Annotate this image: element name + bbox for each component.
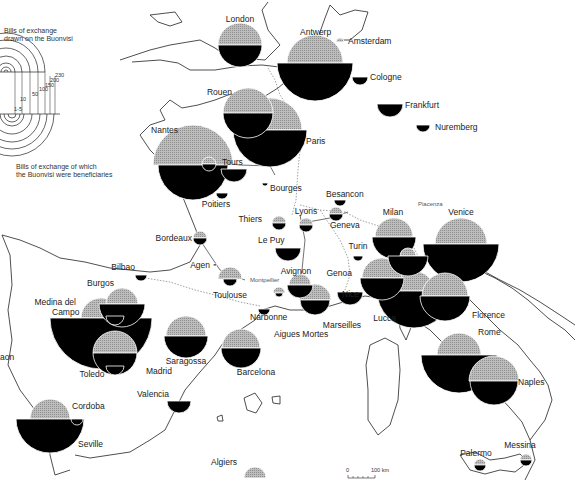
- city-label-turin: Turin: [348, 241, 367, 251]
- city-label-seville: Seville: [78, 439, 103, 449]
- city-label-narbonne: Narbonne: [250, 312, 288, 322]
- city-label-medina-del-campo-2: Campo: [52, 307, 80, 317]
- city-label-amsterdam: Amsterdam: [348, 36, 391, 46]
- city-label-naples: Naples: [518, 377, 544, 387]
- svg-text:1-5: 1-5: [14, 106, 22, 112]
- city-symbol-nantes: [153, 125, 233, 200]
- city-label-lucca: Lucca: [373, 313, 396, 323]
- city-label-bourges: Bourges: [270, 183, 302, 193]
- drawn-on-semicircle: [193, 231, 207, 238]
- legend-bottom-title-2: the Buonvisi were beneficiaries: [16, 171, 113, 178]
- beneficiaries-semicircle: [164, 336, 208, 358]
- beneficiaries-semicircle: [262, 183, 268, 186]
- city-symbol-venice: [423, 218, 499, 282]
- beneficiaries-semicircle: [474, 465, 486, 471]
- city-symbol-avignon: [287, 274, 313, 298]
- beneficiaries-semicircle: [300, 300, 330, 315]
- city-label-palermo: Palermo: [460, 448, 492, 458]
- edge-label: aon: [0, 352, 14, 362]
- city-symbol-bordeaux: [193, 231, 207, 245]
- city-symbol-geneva: [329, 207, 343, 221]
- beneficiaries-semicircle: [223, 279, 237, 286]
- beneficiaries-semicircle: [352, 77, 368, 85]
- city-label-besancon: Besancon: [326, 189, 364, 199]
- beneficiaries-semicircle: [520, 460, 532, 466]
- scale-bar: 0 100 km: [346, 467, 389, 478]
- city-symbol-valencia: [167, 401, 191, 413]
- beneficiaries-semicircle: [334, 200, 346, 206]
- drawn-on-semicircle: [106, 288, 138, 304]
- city-symbol-montpellier: [273, 287, 285, 297]
- city-label-montpellier: Montpellier: [250, 277, 279, 283]
- city-symbol-antwerp: [277, 35, 353, 101]
- svg-text:10: 10: [20, 96, 26, 102]
- city-label-cologne: Cologne: [370, 72, 402, 82]
- beneficiaries-semicircle: [135, 275, 147, 281]
- city-label-poitiers: Poitiers: [202, 199, 230, 209]
- legend-top-title-1: Bills of exchange: [4, 27, 57, 35]
- city-symbol-frankfurt: [377, 104, 403, 117]
- city-symbol-london: [218, 23, 262, 67]
- city-label-barcelona: Barcelona: [237, 367, 276, 377]
- city-symbol-cologne: [352, 77, 368, 85]
- city-symbol-tours: [202, 157, 216, 171]
- city-label-rome: Rome: [478, 327, 501, 337]
- drawn-on-semicircle: [287, 35, 343, 63]
- city-symbol-besancon: [334, 200, 346, 206]
- beneficiaries-semicircle: [275, 248, 301, 261]
- map-canvas: Bills of exchange drawn on the Buonvisi …: [0, 0, 581, 496]
- beneficiaries-semicircle: [221, 348, 261, 368]
- city-label-piacenza: Piacenza: [418, 201, 443, 207]
- drawn-on-semicircle: [375, 218, 413, 237]
- beneficiaries-semicircle: [416, 125, 430, 132]
- drawn-on-semicircle: [218, 23, 262, 45]
- drawn-on-semicircle: [273, 287, 285, 293]
- city-label-messina: Messina: [504, 440, 536, 450]
- svg-text:50: 50: [32, 91, 38, 97]
- drawn-on-semicircle: [244, 467, 266, 478]
- city-symbol-le-puy: [275, 248, 301, 261]
- city-symbol-barcelona: [221, 329, 261, 368]
- drawn-on-semicircle: [520, 454, 532, 460]
- city-label-venice: Venice: [448, 207, 474, 217]
- city-symbol-saragossa: [164, 316, 208, 358]
- drawn-on-semicircle: [218, 267, 242, 279]
- beneficiaries-semicircle: [218, 45, 262, 67]
- city-label-nantes: Nantes: [151, 125, 178, 135]
- drawn-on-semicircle: [474, 459, 486, 465]
- city-label-algiers: Algiers: [211, 457, 237, 467]
- drawn-on-semicircle: [329, 207, 343, 214]
- svg-text:100 km: 100 km: [371, 467, 389, 473]
- city-label-bilbao: Bilbao: [111, 262, 135, 272]
- city-label-aigues-mortes: Aigues Mortes: [274, 329, 328, 339]
- city-label-milan: Milan: [383, 207, 404, 217]
- drawn-on-semicircle: [272, 216, 286, 223]
- city-symbol-messina: [520, 454, 532, 466]
- beneficiaries-semicircle: [167, 401, 191, 413]
- legend-scale-values: 1-5 10 50 100 150 200 230: [14, 72, 64, 112]
- city-label-bordeaux: Bordeaux: [156, 233, 193, 243]
- city-label-rouen: Rouen: [207, 87, 232, 97]
- beneficiaries-semicircle: [353, 256, 363, 261]
- beneficiaries-semicircle: [377, 104, 403, 117]
- svg-text:230: 230: [55, 72, 64, 78]
- drawn-on-semicircle: [435, 218, 487, 244]
- city-symbol-bourges: [262, 183, 268, 186]
- city-symbol-naples: [469, 356, 519, 405]
- beneficiaries-semicircle: [299, 225, 313, 232]
- city-label-toledo: Toledo: [79, 369, 104, 379]
- beneficiaries-semicircle: [272, 223, 286, 230]
- city-label-cordoba: Cordoba: [72, 401, 105, 411]
- legend-bottom-arcs: [0, 114, 60, 156]
- drawn-on-semicircle: [336, 38, 344, 42]
- city-symbol-thiers: [272, 216, 286, 230]
- beneficiaries-semicircle: [275, 293, 283, 297]
- city-label-nuremberg: Nuremberg: [435, 122, 478, 132]
- city-label-valencia: Valencia: [137, 389, 169, 399]
- legend: Bills of exchange drawn on the Buonvisi …: [0, 27, 113, 178]
- city-label-florence: Florence: [472, 310, 505, 320]
- city-label-saragossa: Saragossa: [166, 356, 207, 366]
- city-label-madrid: Madrid: [146, 366, 172, 376]
- city-symbol-palermo: [474, 459, 486, 471]
- city-label-genoa: Genoa: [326, 268, 352, 278]
